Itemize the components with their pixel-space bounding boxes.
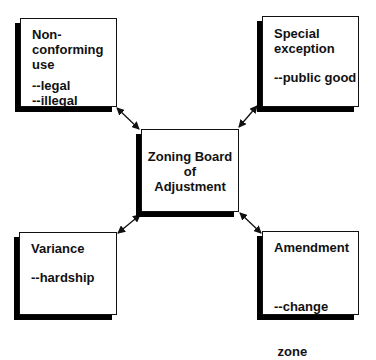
sub-line: --public good	[274, 70, 358, 85]
title-line: conforming	[32, 42, 116, 57]
title-line: Amendment	[274, 240, 358, 255]
arrow-special	[239, 106, 257, 127]
arrow-amendment	[240, 213, 261, 233]
title-line: use	[32, 57, 116, 72]
title-line: Special	[274, 26, 358, 41]
title-line: exception	[274, 41, 358, 56]
sub-line: zone	[274, 344, 358, 359]
node-special-exception: Special exception --public good	[262, 16, 359, 107]
node-nonconforming-use: Non- conforming use --legal --illegal	[20, 18, 117, 107]
node-variance: Variance --hardship	[19, 232, 117, 315]
sub-line: --legal	[32, 78, 116, 93]
node-zoning-board: Zoning Board of Adjustment	[141, 129, 239, 212]
node-title: Amendment	[274, 240, 358, 255]
node-subtext: --hardship	[31, 270, 116, 285]
sub-line: --illegal	[32, 93, 116, 108]
node-subtext: --change zone	[274, 269, 358, 360]
center-line: Zoning Board	[142, 149, 238, 164]
center-line: Adjustment	[142, 179, 238, 194]
node-title: Non- conforming use	[32, 27, 116, 72]
node-title: Special exception	[274, 26, 358, 56]
title-line: Non-	[32, 27, 116, 42]
node-title: Variance	[31, 241, 116, 256]
arrow-nonconforming	[117, 108, 139, 129]
node-amendment: Amendment --change zone	[262, 231, 359, 315]
title-line: Variance	[31, 241, 116, 256]
node-subtext: --public good	[274, 70, 358, 85]
node-subtext: --legal --illegal	[32, 78, 116, 108]
center-line: of	[142, 164, 238, 179]
sub-line: --change	[274, 299, 358, 314]
sub-line: --hardship	[31, 270, 116, 285]
arrow-variance	[118, 215, 140, 233]
